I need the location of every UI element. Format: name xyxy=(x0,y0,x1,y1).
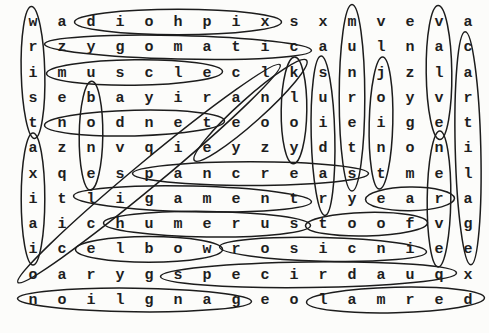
grid-cell: e xyxy=(57,90,66,105)
grid-cell: r xyxy=(28,40,37,55)
grid-cell: d xyxy=(463,292,472,307)
grid-cell: n xyxy=(28,292,37,307)
grid-cell: j xyxy=(376,65,385,80)
grid-cell: p xyxy=(202,15,211,30)
grid-cell: a xyxy=(115,90,124,105)
grid-cell: c xyxy=(289,40,298,55)
grid-cell: m xyxy=(173,217,182,232)
grid-cell: o xyxy=(28,267,37,282)
grid-cell: e xyxy=(173,116,182,131)
grid-cell: r xyxy=(260,166,269,181)
grid-cell: c xyxy=(463,40,472,55)
grid-cell: b xyxy=(86,90,95,105)
grid-cell: e xyxy=(434,292,443,307)
grid-cell: g xyxy=(144,292,153,307)
grid-cell: i xyxy=(463,141,472,156)
grid-cell: s xyxy=(289,242,298,257)
grid-cell: m xyxy=(347,15,356,30)
grid-cell: o xyxy=(376,217,385,232)
grid-cell: u xyxy=(260,217,269,232)
grid-cell: c xyxy=(231,166,240,181)
grid-cell: y xyxy=(289,141,298,156)
grid-cell: i xyxy=(231,15,240,30)
grid-cell: u xyxy=(86,65,95,80)
grid-cell: r xyxy=(318,267,327,282)
grid-cell: e xyxy=(231,116,240,131)
grid-cell: i xyxy=(86,292,95,307)
grid-cell: n xyxy=(434,141,443,156)
grid-cell: x xyxy=(318,15,327,30)
grid-cell: v xyxy=(434,90,443,105)
grid-cell: u xyxy=(318,90,327,105)
grid-cell: n xyxy=(347,65,356,80)
grid-cell: m xyxy=(173,40,182,55)
grid-cell: r xyxy=(434,191,443,206)
grid-cell: t xyxy=(57,191,66,206)
grid-cell: o xyxy=(260,242,269,257)
grid-cell: t xyxy=(28,116,37,131)
grid-cell: o xyxy=(347,217,356,232)
grid-cell: y xyxy=(86,40,95,55)
grid-cell: y xyxy=(405,90,414,105)
grid-cell: s xyxy=(347,166,356,181)
grid-cell: x xyxy=(28,166,37,181)
grid-cell: n xyxy=(202,166,211,181)
grid-cell: i xyxy=(28,65,37,80)
grid-cell: i xyxy=(57,217,66,232)
grid-cell: w xyxy=(28,15,37,30)
grid-cell: a xyxy=(57,15,66,30)
grid-cell: a xyxy=(173,191,182,206)
grid-cell: e xyxy=(434,116,443,131)
grid-cell: d xyxy=(86,15,95,30)
grid-cell: a xyxy=(405,191,414,206)
grid-cell: t xyxy=(318,217,327,232)
grid-cell: r xyxy=(347,90,356,105)
grid-cell: n xyxy=(260,90,269,105)
solution-circles xyxy=(0,0,489,333)
grid-cell: a xyxy=(173,166,182,181)
grid-cell: d xyxy=(347,267,356,282)
grid-cell: g xyxy=(463,217,472,232)
grid-cell: i xyxy=(173,141,182,156)
grid-cell: a xyxy=(463,191,472,206)
grid-cell: s xyxy=(115,65,124,80)
grid-cell: s xyxy=(173,267,182,282)
grid-cell: z xyxy=(260,141,269,156)
grid-cell: q xyxy=(57,166,66,181)
grid-cell: n xyxy=(86,141,95,156)
grid-cell: n xyxy=(376,242,385,257)
grid-cell: l xyxy=(260,65,269,80)
word-circle-tendon xyxy=(44,108,225,138)
grid-cell: d xyxy=(318,141,327,156)
grid-cell: y xyxy=(231,141,240,156)
grid-cell: e xyxy=(434,242,443,257)
grid-cell: z xyxy=(405,65,414,80)
grid-cell: e xyxy=(86,166,95,181)
grid-cell: r xyxy=(86,267,95,282)
grid-cell: q xyxy=(434,267,443,282)
grid-cell: o xyxy=(289,116,298,131)
grid-cell: g xyxy=(231,292,240,307)
grid-cell: e xyxy=(289,166,298,181)
grid-cell: l xyxy=(463,166,472,181)
grid-cell: p xyxy=(144,166,153,181)
grid-cell: y xyxy=(115,267,124,282)
grid-cell: l xyxy=(318,292,327,307)
grid-cell: a xyxy=(202,292,211,307)
grid-cell: p xyxy=(202,267,211,282)
grid-cell: o xyxy=(405,141,414,156)
grid-cell: l xyxy=(86,191,95,206)
grid-cell: s xyxy=(115,166,124,181)
grid-cell: o xyxy=(86,116,95,131)
grid-cell: e xyxy=(376,191,385,206)
grid-cell: t xyxy=(347,141,356,156)
grid-cell: a xyxy=(28,217,37,232)
grid-cell: a xyxy=(347,292,356,307)
grid-cell: e xyxy=(86,242,95,257)
grid-cell: e xyxy=(260,292,269,307)
grid-cell: s xyxy=(28,90,37,105)
grid-cell: i xyxy=(289,267,298,282)
grid-cell: i xyxy=(318,242,327,257)
grid-cell: h xyxy=(173,15,182,30)
grid-cell: a xyxy=(57,267,66,282)
